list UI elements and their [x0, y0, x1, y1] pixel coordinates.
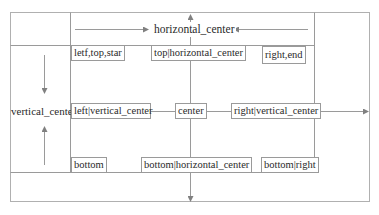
box-top-center: top|horizontal_center — [151, 45, 246, 61]
vertical-center-label: vertical_center — [11, 104, 76, 118]
box-middle-left: left|vertical_center — [71, 103, 151, 119]
box-bottom-right: bottom|right — [261, 157, 319, 173]
box-bottom-center: bottom|horizontal_center — [141, 157, 252, 173]
box-top-right: right,end — [262, 46, 306, 64]
box-bottom-left: bottom — [71, 157, 107, 173]
box-top-left: letf,top,star — [71, 45, 125, 61]
box-center: center — [175, 103, 207, 119]
alignment-diagram: horizontal_center vertical_center letf,t… — [0, 0, 379, 215]
box-middle-right: right|vertical_center — [231, 103, 321, 119]
horizontal-center-label: horizontal_center — [152, 22, 236, 36]
